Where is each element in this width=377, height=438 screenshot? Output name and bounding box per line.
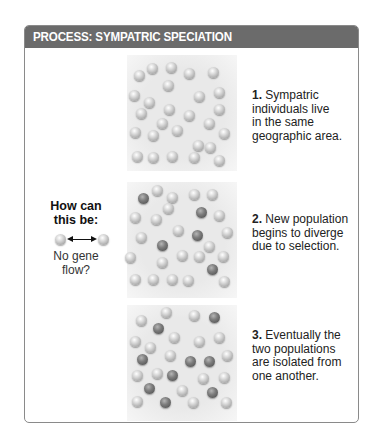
individual-dot-icon xyxy=(222,227,233,238)
individual-dot-icon xyxy=(204,118,215,129)
individual-dot-icon xyxy=(161,307,172,318)
step-3-line-4: one another. xyxy=(252,369,319,383)
individual-dot-icon xyxy=(207,189,218,200)
step-2-line-3: due to selection. xyxy=(252,239,339,253)
diverged-individual-dot-icon xyxy=(185,356,196,367)
individual-dot-icon xyxy=(148,152,159,163)
step-1-number: 1. xyxy=(252,88,265,102)
individual-dot-icon xyxy=(219,372,230,383)
individual-dot-right-icon xyxy=(98,234,109,245)
individual-dot-icon xyxy=(152,185,163,196)
process-header: PROCESS: SYMPATRIC SPECIATION xyxy=(25,26,358,48)
step-3-line-3: are isolated from xyxy=(252,355,341,369)
step-3-line-2: two populations xyxy=(252,342,335,356)
individual-dot-left-icon xyxy=(55,234,66,245)
population-panel-3 xyxy=(127,305,237,421)
individual-dot-icon xyxy=(189,189,200,200)
individual-dot-icon xyxy=(188,397,199,408)
individual-dot-icon xyxy=(167,274,178,285)
individual-dot-icon xyxy=(132,396,143,407)
individual-dot-icon xyxy=(214,332,225,343)
step-1-caption: 1. Sympatric individuals live in the sam… xyxy=(252,89,362,143)
individual-dot-icon xyxy=(205,142,216,153)
individual-dot-icon xyxy=(130,336,141,347)
individual-dot-icon xyxy=(164,104,175,115)
question-title-line-2: this be: xyxy=(36,213,116,227)
individual-dot-icon xyxy=(152,368,163,379)
individual-dot-icon xyxy=(194,251,205,262)
question-sub-line-2: flow? xyxy=(36,264,116,278)
individual-dot-icon xyxy=(172,125,183,136)
individual-dot-icon xyxy=(166,62,177,73)
population-panel-1 xyxy=(127,55,237,171)
individual-dot-icon xyxy=(193,140,204,151)
individual-dot-icon xyxy=(136,315,147,326)
diverged-individual-dot-icon xyxy=(138,193,149,204)
individual-dot-icon xyxy=(125,252,136,263)
diverged-individual-dot-icon xyxy=(204,356,215,367)
step-1-line-2: individuals live xyxy=(252,102,329,116)
diverged-individual-dot-icon xyxy=(144,383,155,394)
individual-dot-icon xyxy=(167,192,178,203)
individual-dot-icon xyxy=(173,225,184,236)
individual-dot-icon xyxy=(130,274,141,285)
individual-dot-icon xyxy=(204,241,215,252)
individual-dot-icon xyxy=(145,342,156,353)
individual-dot-icon xyxy=(136,232,147,243)
step-2-line-2: begins to diverge xyxy=(252,226,343,240)
step-1-line-4: geographic area. xyxy=(252,129,342,143)
individual-dot-icon xyxy=(222,350,233,361)
individual-dot-icon xyxy=(214,104,225,115)
individual-dot-icon xyxy=(130,212,141,223)
individual-dot-icon xyxy=(208,67,219,78)
individual-dot-icon xyxy=(129,90,140,101)
individual-dot-icon xyxy=(167,151,178,162)
individual-dot-icon xyxy=(157,257,168,268)
population-panel-2 xyxy=(127,182,237,298)
diverged-individual-dot-icon xyxy=(153,323,164,334)
diverged-individual-dot-icon xyxy=(196,207,207,218)
individual-dot-icon xyxy=(163,203,174,214)
individual-dot-icon xyxy=(183,275,194,286)
individual-dot-icon xyxy=(136,108,147,119)
step-2-number: 2. xyxy=(252,212,265,226)
individual-dot-icon xyxy=(214,210,225,221)
diverged-individual-dot-icon xyxy=(209,312,220,323)
diverged-individual-dot-icon xyxy=(192,230,203,241)
individual-dot-icon xyxy=(218,251,229,262)
individual-dot-icon xyxy=(130,127,141,138)
individual-dot-icon xyxy=(132,370,143,381)
individual-dot-icon xyxy=(132,151,143,162)
gene-flow-diagram xyxy=(36,229,116,249)
individual-dot-icon xyxy=(198,373,209,384)
individual-dot-icon xyxy=(157,118,168,129)
individual-dot-icon xyxy=(177,385,188,396)
individual-dot-icon xyxy=(189,310,200,321)
step-1-line-1: Sympatric xyxy=(265,88,318,102)
individual-dot-icon xyxy=(148,274,159,285)
individual-dot-icon xyxy=(134,70,145,81)
individual-dot-icon xyxy=(163,80,174,91)
individual-dot-icon xyxy=(177,250,188,261)
diverged-individual-dot-icon xyxy=(160,397,171,408)
individual-dot-icon xyxy=(165,350,176,361)
step-3-line-1: Eventually the xyxy=(265,328,340,342)
individual-dot-icon xyxy=(214,155,225,166)
diverged-individual-dot-icon xyxy=(207,387,218,398)
step-2-caption: 2. New population begins to diverge due … xyxy=(252,213,362,254)
individual-dot-icon xyxy=(221,397,232,408)
diverged-individual-dot-icon xyxy=(207,264,218,275)
step-3-caption: 3. Eventually the two populations are is… xyxy=(252,329,362,383)
individual-dot-icon xyxy=(151,214,162,225)
process-title: PROCESS: SYMPATRIC SPECIATION xyxy=(33,26,232,48)
step-2-line-1: New population xyxy=(265,212,348,226)
individual-dot-icon xyxy=(214,87,225,98)
question-sub-line-1: No gene xyxy=(36,250,116,264)
individual-dot-icon xyxy=(169,332,180,343)
individual-dot-icon xyxy=(189,152,200,163)
individual-dot-icon xyxy=(147,63,158,74)
individual-dot-icon xyxy=(144,97,155,108)
diverged-individual-dot-icon xyxy=(167,370,178,381)
step-1-line-3: in the same xyxy=(252,115,314,129)
diverged-individual-dot-icon xyxy=(157,240,168,251)
